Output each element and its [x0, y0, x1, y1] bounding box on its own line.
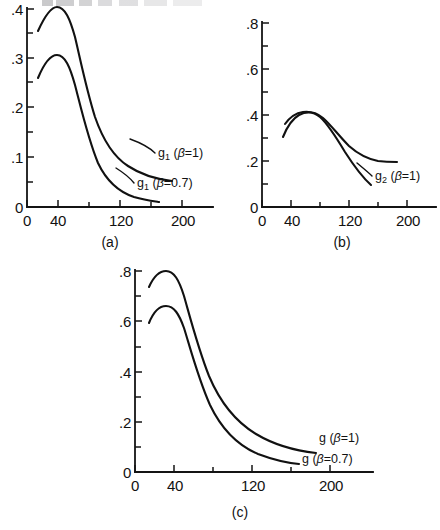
x-tick-label: 200: [319, 477, 343, 494]
panel-b-y-tick-labels: 0 .2 .4 .6 .8: [246, 15, 258, 216]
y-tick-label: 0: [250, 199, 258, 216]
curve-b-upper: [285, 112, 397, 162]
panel-c-y-ticks: [135, 271, 142, 472]
panel-c-plot: 0 .2 .4 .6 .8 0 40 120 200 g (β=1) g (β=…: [90, 255, 440, 530]
panel-c-y-tick-labels: 0 .2 .4 .6 .8: [119, 263, 131, 481]
x-tick-label: 120: [109, 212, 133, 229]
curve-g-beta-07: [149, 306, 299, 464]
leader-line-g1-beta-1: [130, 139, 155, 153]
x-tick-label: 0: [23, 212, 31, 229]
y-tick-label: .4: [119, 364, 131, 381]
y-tick-label: .8: [119, 263, 131, 280]
panel-c-annotations: g (β=1) g (β=0.7): [302, 431, 359, 466]
panel-a: 0 .1 .2 .3 .4 0 40 120 200 g1 (β=1) g1 (…: [0, 0, 220, 250]
panel-b-caption: (b): [333, 234, 350, 250]
y-tick-label: .4: [246, 107, 258, 124]
panel-c-caption: (c): [232, 504, 248, 520]
y-tick-label: .8: [246, 15, 258, 32]
y-tick-label: .3: [11, 50, 23, 67]
y-tick-label: .2: [246, 153, 258, 170]
y-tick-label: 0: [123, 464, 131, 481]
curve-label-g1-beta-07: g1 (β=0.7): [137, 176, 193, 192]
y-tick-label: .1: [11, 149, 23, 166]
panel-b-x-tick-labels: 0 40 120 200: [258, 212, 420, 229]
panel-b-y-ticks: [262, 23, 269, 207]
curve-g2-beta-1: [283, 113, 371, 185]
x-tick-label: 200: [396, 212, 420, 229]
panel-a-plot: 0 .1 .2 .3 .4 0 40 120 200 g1 (β=1) g1 (…: [0, 0, 220, 250]
curve-label-g1-beta-1: g1 (β=1): [158, 146, 203, 162]
panel-b: 0 .2 .4 .6 .8 0 40 120 200 g2 (β=1) (b): [220, 0, 440, 250]
x-tick-label: 40: [167, 477, 183, 494]
x-tick-label: 40: [284, 212, 300, 229]
panel-c-x-tick-labels: 0 40 120 200: [131, 477, 343, 494]
panel-a-caption: (a): [101, 234, 118, 250]
panel-a-curves: [38, 7, 172, 202]
panel-b-x-ticks: [262, 200, 407, 207]
panel-c-x-ticks: [135, 465, 330, 472]
curve-label-g-beta-1: g (β=1): [319, 431, 359, 445]
x-tick-label: 200: [171, 212, 195, 229]
y-tick-label: .4: [11, 1, 23, 18]
x-tick-label: 0: [131, 477, 139, 494]
panel-b-plot: 0 .2 .4 .6 .8 0 40 120 200 g2 (β=1) (b): [220, 0, 440, 250]
x-tick-label: 120: [241, 477, 265, 494]
panel-a-y-ticks: [27, 9, 34, 207]
curve-label-g-beta-07: g (β=0.7): [302, 452, 353, 466]
x-tick-label: 40: [50, 212, 66, 229]
panel-c: 0 .2 .4 .6 .8 0 40 120 200 g (β=1) g (β=…: [90, 255, 440, 530]
figure-root: 0 .1 .2 .3 .4 0 40 120 200 g1 (β=1) g1 (…: [0, 0, 440, 530]
x-tick-label: 120: [338, 212, 362, 229]
y-tick-label: 0: [15, 199, 23, 216]
x-tick-label: 0: [258, 212, 266, 229]
panel-a-x-tick-labels: 0 40 120 200: [23, 212, 195, 229]
leader-line-g2-beta-1: [357, 163, 372, 176]
y-tick-label: .2: [11, 99, 23, 116]
y-tick-label: .6: [246, 61, 258, 78]
leader-line-g1-beta-07: [116, 168, 134, 183]
curve-g-beta-1: [149, 271, 316, 453]
curve-g1-beta-1: [38, 7, 172, 181]
panel-a-y-tick-labels: 0 .1 .2 .3 .4: [11, 1, 23, 216]
curve-label-g2-beta-1: g2 (β=1): [375, 169, 420, 185]
y-tick-label: .6: [119, 313, 131, 330]
panel-c-curves: [149, 271, 316, 464]
y-tick-label: .2: [119, 414, 131, 431]
